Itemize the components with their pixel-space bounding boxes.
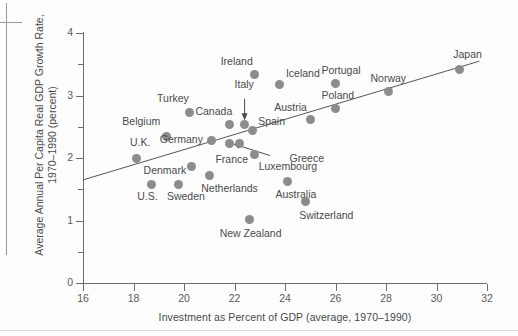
- x-tick: [437, 284, 438, 291]
- data-point-label: Portugal: [322, 64, 361, 76]
- y-tick-major: [76, 33, 83, 34]
- x-tick: [83, 284, 84, 291]
- data-point-label: Austria: [274, 101, 307, 113]
- data-point: [205, 171, 214, 180]
- x-tick: [285, 284, 286, 291]
- data-point: [331, 79, 340, 88]
- data-point-label: Norway: [371, 72, 407, 84]
- x-tick-label: 18: [119, 292, 149, 304]
- data-point-label: U.S.: [137, 190, 157, 202]
- x-tick: [134, 284, 135, 291]
- x-tick: [487, 284, 488, 291]
- data-point-label: Switzerland: [299, 209, 353, 221]
- data-point-label: New Zealand: [220, 227, 282, 239]
- data-point: [147, 180, 156, 189]
- x-axis-title: Investment as Percent of GDP (average, 1…: [83, 311, 487, 323]
- y-tick-major: [76, 283, 83, 284]
- y-tick-major: [76, 96, 83, 97]
- data-point-label: U.K.: [130, 136, 150, 148]
- data-point-label: Ireland: [221, 55, 253, 67]
- data-point-label: Spain: [258, 115, 285, 127]
- data-point: [250, 70, 259, 79]
- data-point-label: Netherlands: [201, 182, 258, 194]
- y-axis-title-line-1: Average Annual Per Capita Real GDP Growt…: [33, 5, 46, 265]
- y-tick-label: 0: [47, 276, 73, 288]
- y-axis-title: Average Annual Per Capita Real GDP Growt…: [33, 5, 59, 265]
- x-tick-label: 24: [270, 292, 300, 304]
- data-point-label: Iceland: [286, 67, 320, 79]
- data-point: [225, 139, 234, 148]
- data-point: [455, 65, 464, 74]
- data-point-label: Sweden: [167, 190, 205, 202]
- scatter-plot-figure: 01234 161820222426283032 Investment as P…: [0, 0, 518, 336]
- x-tick: [184, 284, 185, 291]
- x-tick-label: 26: [321, 292, 351, 304]
- x-tick: [336, 284, 337, 291]
- x-tick-label: 20: [169, 292, 199, 304]
- page-edge-rule-bottom: [0, 330, 518, 331]
- data-point: [185, 108, 194, 117]
- data-point-label: Australia: [276, 188, 317, 200]
- data-point: [283, 177, 292, 186]
- data-point-label: Poland: [322, 89, 355, 101]
- data-point: [132, 154, 141, 163]
- data-point-label: Japan: [453, 48, 482, 60]
- page-edge-rule-top: [0, 22, 22, 23]
- data-point-label: Denmark: [144, 164, 187, 176]
- data-point-label: Germany: [160, 133, 203, 145]
- data-point-label: France: [215, 153, 248, 165]
- y-axis-title-line-2: 1970–1990 (percent): [46, 5, 59, 265]
- data-point: [301, 197, 310, 206]
- data-point: [225, 120, 234, 129]
- data-point-label: Turkey: [157, 92, 189, 104]
- y-tick-major: [76, 221, 83, 222]
- x-tick: [386, 284, 387, 291]
- x-tick-label: 16: [68, 292, 98, 304]
- plot-area: U.K.BelgiumDenmarkU.S.SwedenTurkeyGerman…: [83, 33, 487, 283]
- x-tick-label: 28: [371, 292, 401, 304]
- data-point-label: Italy: [235, 78, 254, 90]
- data-point-label: Luxembourg: [259, 160, 317, 172]
- data-point: [250, 150, 259, 159]
- data-point: [306, 115, 315, 124]
- page-edge-rule-left: [6, 3, 7, 255]
- data-point-label: Canada: [195, 105, 232, 117]
- x-tick-label: 32: [472, 292, 502, 304]
- x-tick-label: 22: [220, 292, 250, 304]
- data-point: [248, 126, 257, 135]
- x-tick-label: 30: [422, 292, 452, 304]
- data-point: [331, 104, 340, 113]
- x-tick: [235, 284, 236, 291]
- data-point-label: Belgium: [122, 115, 160, 127]
- y-tick-major: [76, 158, 83, 159]
